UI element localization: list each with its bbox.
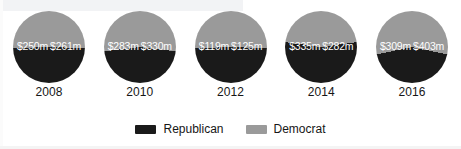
republican-value-2010: $283m	[108, 38, 139, 54]
year-label-2008: 2008	[12, 85, 86, 99]
republican-value-2012: $119m	[199, 38, 229, 54]
pie-labels-2012: $119m $125m	[194, 38, 268, 54]
republican-value-2014: $335m	[289, 38, 320, 54]
pie-group-2014: $335m $282m 2014	[284, 9, 358, 97]
pie-group-2010: $283m $330m 2010	[103, 9, 177, 97]
year-label-2014: 2014	[284, 85, 358, 99]
democrat-value-2014: $282m	[322, 38, 353, 54]
pie-labels-2014: $335m $282m	[284, 38, 358, 54]
legend-entry-democrat: Democrat	[246, 122, 326, 136]
democrat-value-2008: $261m	[50, 38, 81, 54]
republican-value-2016: $309m	[380, 38, 411, 54]
legend-swatch-republican	[135, 125, 156, 134]
legend-label-democrat: Democrat	[274, 122, 326, 136]
pie-group-2016: $309m $403m 2016	[375, 9, 449, 97]
year-label-2012: 2012	[194, 85, 268, 99]
pie-labels-2010: $283m $330m	[103, 38, 177, 54]
pie-group-2012: $119m $125m 2012	[194, 9, 268, 97]
pie-labels-2016: $309m $403m	[375, 38, 449, 54]
year-label-2010: 2010	[103, 85, 177, 99]
year-label-2016: 2016	[375, 85, 449, 99]
republican-value-2008: $250m	[17, 38, 48, 54]
pie-chart-row: $250m $261m 2008 $283m $330m 2010 $119m …	[0, 9, 461, 97]
legend-label-republican: Republican	[163, 122, 223, 136]
party-spending-pie-chart: $250m $261m 2008 $283m $330m 2010 $119m …	[0, 0, 461, 149]
democrat-value-2016: $403m	[413, 38, 444, 54]
legend-swatch-democrat	[246, 125, 267, 134]
democrat-value-2012: $125m	[231, 38, 262, 54]
legend-entry-republican: Republican	[135, 122, 223, 136]
pie-group-2008: $250m $261m 2008	[12, 9, 86, 97]
chart-legend: Republican Democrat	[0, 122, 461, 136]
democrat-value-2010: $330m	[141, 38, 172, 54]
pie-labels-2008: $250m $261m	[12, 38, 86, 54]
